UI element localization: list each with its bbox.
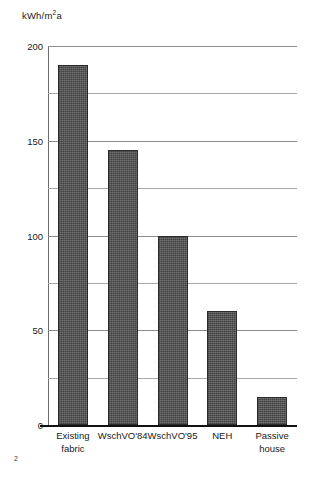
x-axis-baseline [40,425,297,427]
bar [58,65,88,425]
x-axis-tick-label: Passive house [243,430,301,455]
bar [257,397,287,425]
y-axis-tick-label: 150 [27,135,43,146]
y-axis-tick-label: 50 [32,325,43,336]
page-number: 2 [14,455,18,462]
bar-chart-figure: kWh/m2a 050100150200 Existing fabricWsch… [0,0,315,478]
gridline-major [48,46,297,47]
bar [158,236,188,426]
x-axis-category-labels: Existing fabricWschVO'84WschVO'95NEHPass… [48,430,297,470]
y-axis-tick-label: 100 [27,230,43,241]
plot-area: 050100150200 [48,46,297,425]
bar [108,150,138,425]
y-axis-tick-label: 200 [27,41,43,52]
y-axis-unit-text: kWh/m [22,10,53,21]
y-axis-unit-suffix: a [56,10,61,21]
bar [207,311,237,425]
y-axis-unit-label: kWh/m2a [22,10,62,21]
